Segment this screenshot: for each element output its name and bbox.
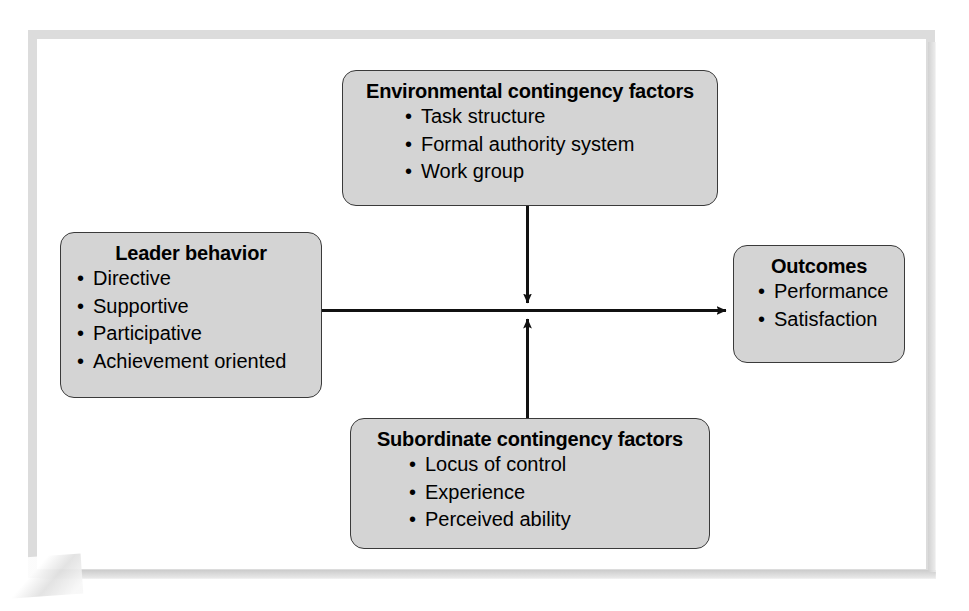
list-item: Perceived ability [409, 506, 709, 534]
list-item: Achievement oriented [77, 348, 321, 376]
box-environmental-contingency-factors: Environmental contingency factors Task s… [342, 70, 718, 206]
box-outcomes: Outcomes Performance Satisfaction [733, 245, 905, 363]
list-item: Participative [77, 320, 321, 348]
list-item: Satisfaction [758, 306, 904, 334]
list-item: Directive [77, 265, 321, 293]
page-shadow-bottom [40, 570, 936, 579]
page-shadow-right [928, 42, 936, 572]
list-item: Supportive [77, 293, 321, 321]
box-item-list: Locus of control Experience Perceived ab… [409, 451, 709, 534]
box-title: Leader behavior [61, 242, 321, 265]
list-item: Task structure [405, 103, 717, 131]
box-title: Outcomes [734, 255, 904, 278]
box-leader-behavior: Leader behavior Directive Supportive Par… [60, 232, 322, 398]
list-item: Experience [409, 479, 709, 507]
list-item: Work group [405, 158, 717, 186]
box-item-list: Directive Supportive Participative Achie… [77, 265, 321, 375]
box-subordinate-contingency-factors: Subordinate contingency factors Locus of… [350, 418, 710, 549]
list-item: Performance [758, 278, 904, 306]
box-item-list: Task structure Formal authority system W… [405, 103, 717, 186]
box-item-list: Performance Satisfaction [758, 278, 904, 333]
page-curl-artifact [9, 554, 84, 599]
box-title: Subordinate contingency factors [351, 428, 709, 451]
list-item: Formal authority system [405, 131, 717, 159]
box-title: Environmental contingency factors [343, 80, 717, 103]
list-item: Locus of control [409, 451, 709, 479]
diagram-canvas: Environmental contingency factors Task s… [0, 0, 969, 611]
